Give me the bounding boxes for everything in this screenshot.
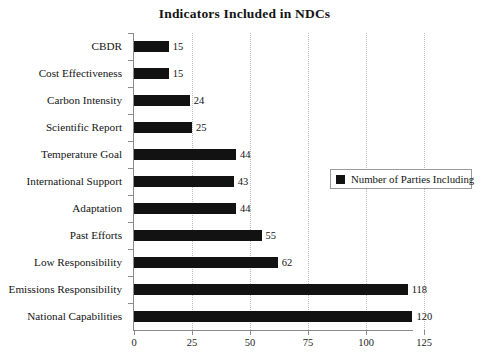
bar-3 <box>134 122 192 133</box>
bar-value-label-1: 15 <box>169 68 184 79</box>
y-axis-top-tick <box>128 33 134 34</box>
category-label-1: Cost Effectiveness <box>0 60 128 87</box>
category-label-7: Past Efforts <box>0 222 128 249</box>
bar-chart: Indicators Included in NDCs Number of Pa… <box>0 0 489 363</box>
bar-5 <box>134 176 234 187</box>
x-tick-label-0: 0 <box>114 337 154 348</box>
category-label-4: Temperature Goal <box>0 141 128 168</box>
bar-9 <box>134 284 408 295</box>
bar-value-label-8: 62 <box>278 257 293 268</box>
chart-row: Cost Effectiveness15 <box>0 60 489 87</box>
x-tick-label-125: 125 <box>404 337 444 348</box>
chart-row: Low Responsibility62 <box>0 249 489 276</box>
bar-0 <box>134 41 169 52</box>
bar-7 <box>134 230 262 241</box>
x-tick-label-50: 50 <box>230 337 270 348</box>
x-tick-0 <box>134 330 135 335</box>
bar-value-label-5: 43 <box>234 176 249 187</box>
bar-value-label-0: 15 <box>169 41 184 52</box>
bar-value-label-6: 44 <box>236 203 251 214</box>
bar-10 <box>134 311 412 322</box>
x-tick-75 <box>308 330 309 335</box>
category-label-8: Low Responsibility <box>0 249 128 276</box>
chart-row: Scientific Report25 <box>0 114 489 141</box>
chart-title: Indicators Included in NDCs <box>0 6 489 22</box>
category-label-2: Carbon Intensity <box>0 87 128 114</box>
chart-row: International Support43 <box>0 168 489 195</box>
chart-row: Adaptation44 <box>0 195 489 222</box>
x-tick-label-25: 25 <box>172 337 212 348</box>
bar-value-label-2: 24 <box>190 95 205 106</box>
chart-row: CBDR15 <box>0 33 489 60</box>
category-label-9: Emissions Responsibility <box>0 276 128 303</box>
bar-value-label-7: 55 <box>262 230 277 241</box>
chart-row: Carbon Intensity24 <box>0 87 489 114</box>
bar-2 <box>134 95 190 106</box>
x-tick-100 <box>366 330 367 335</box>
category-label-6: Adaptation <box>0 195 128 222</box>
chart-row: National Capabilities120 <box>0 303 489 330</box>
bar-8 <box>134 257 278 268</box>
bar-1 <box>134 68 169 79</box>
chart-row: Temperature Goal44 <box>0 141 489 168</box>
x-tick-label-100: 100 <box>346 337 386 348</box>
x-axis-line <box>133 330 413 331</box>
x-tick-25 <box>192 330 193 335</box>
bar-4 <box>134 149 236 160</box>
bar-6 <box>134 203 236 214</box>
bar-value-label-10: 120 <box>412 311 432 322</box>
x-tick-label-75: 75 <box>288 337 328 348</box>
bar-value-label-9: 118 <box>408 284 427 295</box>
category-label-5: International Support <box>0 168 128 195</box>
bar-value-label-4: 44 <box>236 149 251 160</box>
category-label-0: CBDR <box>0 33 128 60</box>
x-tick-50 <box>250 330 251 335</box>
category-label-10: National Capabilities <box>0 303 128 330</box>
category-label-3: Scientific Report <box>0 114 128 141</box>
chart-row: Past Efforts55 <box>0 222 489 249</box>
x-tick-125 <box>424 330 425 335</box>
bar-value-label-3: 25 <box>192 122 207 133</box>
chart-row: Emissions Responsibility118 <box>0 276 489 303</box>
